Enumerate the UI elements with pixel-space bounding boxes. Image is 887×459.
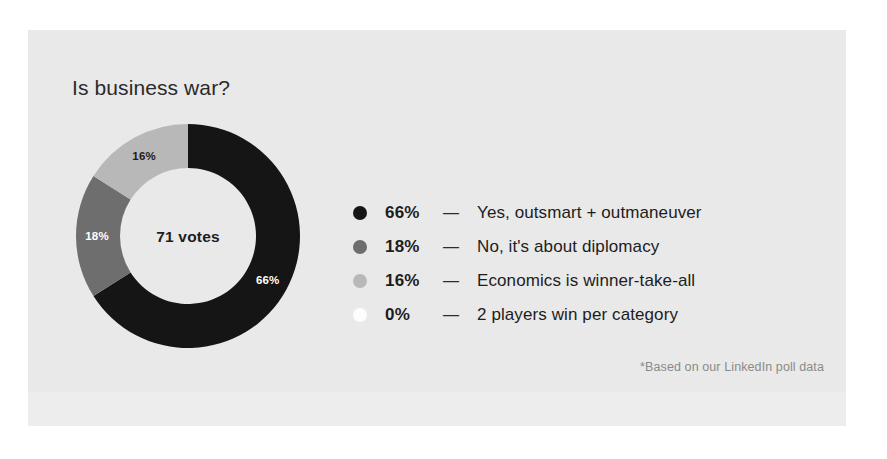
legend-color-swatch-icon xyxy=(353,240,367,254)
legend-item: 66%—Yes, outsmart + outmaneuver xyxy=(353,196,823,230)
legend-dash: — xyxy=(443,238,477,256)
donut-slice-label: 18% xyxy=(85,230,109,242)
legend-color-swatch-icon xyxy=(353,308,367,322)
legend-dash: — xyxy=(443,272,477,290)
footnote: *Based on our LinkedIn poll data xyxy=(640,360,824,374)
legend-percent: 16% xyxy=(385,271,443,291)
legend-label: No, it's about diplomacy xyxy=(477,237,659,257)
page-title: Is business war? xyxy=(72,76,230,100)
legend-color-swatch-icon xyxy=(353,206,367,220)
legend-label: 2 players win per category xyxy=(477,305,678,325)
donut-slice-label: 16% xyxy=(132,150,156,162)
donut-chart-svg: 66%18%16% 71 votes xyxy=(70,118,306,354)
legend-item: 0%—2 players win per category xyxy=(353,298,823,332)
donut-chart: 66%18%16% 71 votes xyxy=(70,118,306,354)
legend-label: Economics is winner-take-all xyxy=(477,271,695,291)
legend-item: 16%—Economics is winner-take-all xyxy=(353,264,823,298)
legend-percent: 18% xyxy=(385,237,443,257)
poll-card: Is business war? 66%18%16% 71 votes 66%—… xyxy=(28,30,846,426)
legend-color-swatch-icon xyxy=(353,274,367,288)
donut-slice-label: 66% xyxy=(256,274,280,286)
chart-legend: 66%—Yes, outsmart + outmaneuver18%—No, i… xyxy=(353,196,823,332)
legend-label: Yes, outsmart + outmaneuver xyxy=(477,203,702,223)
legend-item: 18%—No, it's about diplomacy xyxy=(353,230,823,264)
legend-dash: — xyxy=(443,204,477,222)
legend-percent: 0% xyxy=(385,305,443,325)
legend-dash: — xyxy=(443,306,477,324)
legend-percent: 66% xyxy=(385,203,443,223)
donut-center-label: 71 votes xyxy=(156,228,220,245)
